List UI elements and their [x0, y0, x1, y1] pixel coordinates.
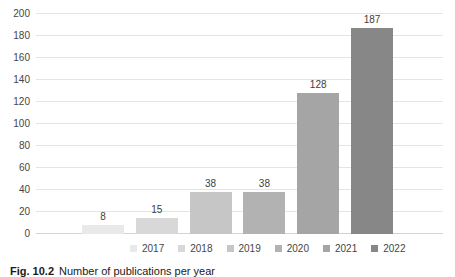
legend-item-2017: 2017 [130, 243, 164, 254]
plot-area: 8153838128187 [36, 14, 443, 234]
figure-caption-text: Number of publications per year [59, 265, 215, 277]
bar-value-label: 8 [100, 211, 106, 222]
bar-2021: 128 [297, 93, 339, 234]
legend-swatch-icon [227, 245, 234, 252]
legend-label: 2020 [287, 243, 309, 254]
bar-2019: 38 [190, 192, 232, 234]
y-axis: 020406080100120140160180200 [0, 14, 30, 234]
figure-caption: Fig. 10.2Number of publications per year [10, 265, 215, 277]
legend-swatch-icon [130, 245, 137, 252]
y-axis-tick-label: 20 [0, 205, 30, 219]
legend-swatch-icon [178, 245, 185, 252]
bar-value-label: 38 [259, 178, 270, 189]
y-axis-tick-label: 160 [0, 51, 30, 65]
legend-item-2021: 2021 [323, 243, 357, 254]
bar-2017: 8 [82, 225, 124, 234]
legend-item-2019: 2019 [227, 243, 261, 254]
legend-item-2020: 2020 [275, 243, 309, 254]
bar-2020: 38 [243, 192, 285, 234]
y-axis-tick-label: 140 [0, 73, 30, 87]
legend-label: 2018 [190, 243, 212, 254]
legend-label: 2021 [335, 243, 357, 254]
legend-label: 2019 [239, 243, 261, 254]
legend-label: 2017 [142, 243, 164, 254]
y-axis-tick-label: 80 [0, 139, 30, 153]
y-axis-tick-label: 40 [0, 183, 30, 197]
bar-value-label: 38 [205, 178, 216, 189]
figure-caption-label: Fig. 10.2 [10, 265, 54, 277]
bar-value-label: 187 [364, 14, 381, 25]
legend-item-2018: 2018 [178, 243, 212, 254]
y-axis-tick-label: 180 [0, 29, 30, 43]
bar-value-label: 128 [310, 79, 327, 90]
bar-2018: 15 [136, 218, 178, 235]
gridline [36, 13, 443, 14]
legend-label: 2022 [383, 243, 405, 254]
y-axis-tick-label: 60 [0, 161, 30, 175]
chart-legend: 201720182019202020212022 [130, 243, 406, 254]
y-axis-tick-label: 200 [0, 7, 30, 21]
bar-value-label: 15 [151, 204, 162, 215]
y-axis-tick-label: 100 [0, 117, 30, 131]
legend-item-2022: 2022 [371, 243, 405, 254]
y-axis-tick-label: 0 [0, 227, 30, 241]
legend-swatch-icon [323, 245, 330, 252]
bar-2022: 187 [351, 28, 393, 234]
y-axis-tick-label: 120 [0, 95, 30, 109]
legend-swatch-icon [371, 245, 378, 252]
legend-swatch-icon [275, 245, 282, 252]
